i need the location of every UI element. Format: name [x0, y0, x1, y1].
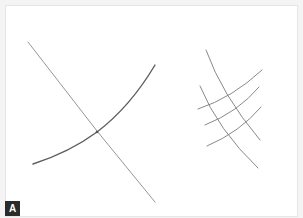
sketch-drawing — [0, 0, 303, 218]
intersection-point — [96, 131, 99, 134]
curve-line — [33, 65, 155, 164]
left-sketch — [28, 42, 155, 202]
straight-line — [28, 42, 155, 202]
panel-label: A — [5, 201, 20, 216]
right-sketch — [198, 50, 262, 168]
ascending-line-3 — [207, 107, 261, 146]
